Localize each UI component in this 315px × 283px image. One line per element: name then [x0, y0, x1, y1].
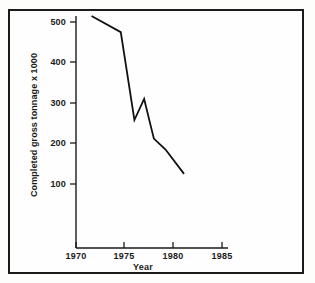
x-tick-label-1980: 1980 [159, 251, 187, 261]
y-tick-label-500: 500 [44, 17, 66, 27]
x-axis-title: Year [108, 262, 178, 272]
chart-figure: 500 400 300 200 100 1970 1975 1980 1985 … [0, 0, 315, 283]
data-series-line [92, 16, 184, 174]
y-tick-label-300: 300 [44, 98, 66, 108]
y-tick-label-200: 200 [44, 138, 66, 148]
y-tick-label-100: 100 [44, 179, 66, 189]
y-tick-label-400: 400 [44, 57, 66, 67]
x-tick-label-1985: 1985 [208, 251, 236, 261]
y-axis-title: Completed gross tonnage x 1000 [29, 45, 39, 205]
x-tick-label-1975: 1975 [110, 251, 138, 261]
x-tick-label-1970: 1970 [62, 251, 90, 261]
